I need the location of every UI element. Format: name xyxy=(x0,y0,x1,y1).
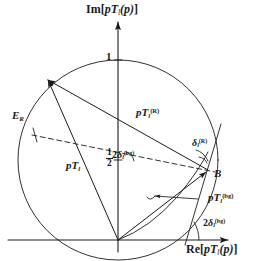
label-delta-resonance: δl(R) xyxy=(192,138,207,149)
label-pT-resonance: pTl(R) xyxy=(136,107,159,119)
argand-diagram-figure: Im[pTl(p)] Re[pTl(p)] 1 1 2 pTl(R) pTl p… xyxy=(0,0,270,261)
sweep-arc-to-b xyxy=(118,152,208,240)
im-T: T xyxy=(111,2,118,16)
label-2delta-background-lower: 2δl(bg) xyxy=(203,218,225,229)
im-close: ] xyxy=(134,2,138,16)
real-axis-label: Re[pTl(p)] xyxy=(186,243,237,256)
bgl-sup: (bg) xyxy=(215,218,225,224)
label-resonance-energy: ER xyxy=(12,110,24,122)
label-pT-total: pTl xyxy=(66,160,80,172)
bg-sup: (bg) xyxy=(222,192,233,199)
label-point-b: B xyxy=(214,168,221,179)
imaginary-axis-label: Im[pTl(p)] xyxy=(86,3,138,16)
leader-hook-pT-background xyxy=(147,196,155,199)
figure-canvas xyxy=(0,0,270,261)
vector-pT-background xyxy=(118,172,206,240)
label-2delta-background-upper: 2δl(bg) xyxy=(112,150,134,161)
res-sup: (R) xyxy=(150,107,159,114)
er-sub: R xyxy=(19,115,24,122)
tot-sub: l xyxy=(78,165,80,172)
re-fn: Re xyxy=(186,242,200,256)
re-arg: (p) xyxy=(219,242,233,256)
bgu-sup: (bg) xyxy=(124,150,134,156)
im-fn: Im xyxy=(86,2,101,16)
im-arg: (p) xyxy=(120,2,134,16)
label-pT-background: pTl(bg) xyxy=(208,192,234,204)
angle-arc-delta-r-2 xyxy=(199,157,207,163)
dr-sup: (R) xyxy=(199,138,207,144)
re-close: ] xyxy=(233,242,237,256)
leader-pT-background xyxy=(155,196,198,199)
unity-tick-label: 1 xyxy=(106,51,112,62)
